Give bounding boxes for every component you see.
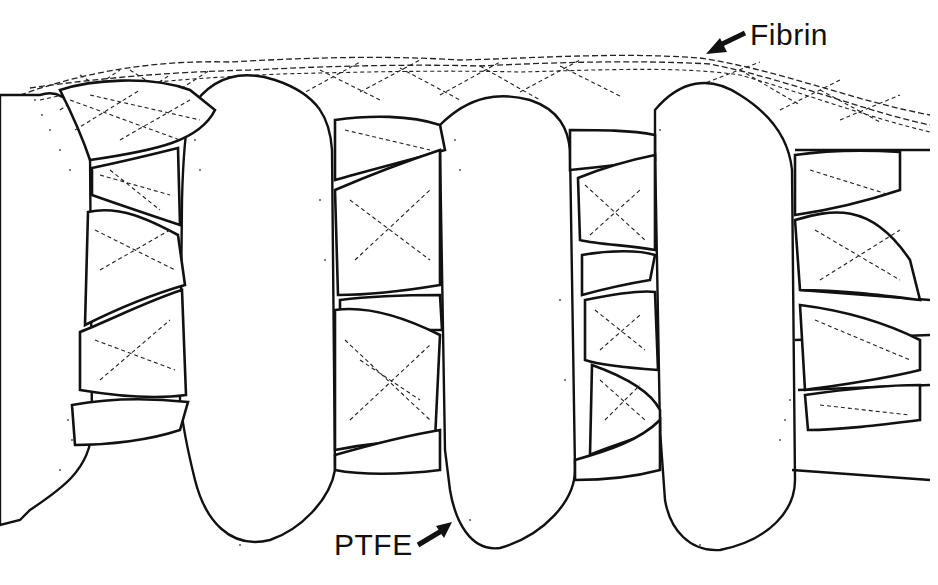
ptfe-arrow [418, 522, 452, 545]
fibrin-cells-right [795, 151, 920, 430]
ptfe-fibrin-diagram [0, 0, 938, 585]
fibrin-label: Fibrin [750, 18, 828, 52]
fibrin-arrow [706, 33, 745, 54]
fibrin-cells-center-right [570, 130, 660, 480]
fibrin-cells-center-left [335, 117, 445, 474]
ptfe-label: PTFE [334, 528, 413, 562]
